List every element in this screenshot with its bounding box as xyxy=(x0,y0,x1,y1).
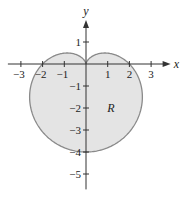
x-tick-label: −1 xyxy=(56,68,68,80)
y-axis-label: y xyxy=(82,4,89,18)
y-axis-arrow-icon xyxy=(83,20,89,28)
x-tick-label: −2 xyxy=(35,68,47,80)
x-tick-label: −3 xyxy=(13,68,25,80)
cardioid-chart: −3−2−11231−1−2−3−4−5 x y R xyxy=(0,0,188,199)
x-tick-label: 1 xyxy=(105,68,111,80)
x-tick-label: 3 xyxy=(148,68,154,80)
x-axis-label: x xyxy=(173,57,180,71)
y-tick-label: −3 xyxy=(69,124,81,136)
y-tick-label: −4 xyxy=(69,146,81,158)
y-tick-label: −1 xyxy=(69,80,81,92)
y-tick-label: −2 xyxy=(69,102,81,114)
region-label: R xyxy=(106,101,115,115)
x-tick-label: 2 xyxy=(127,68,133,80)
y-tick-label: 1 xyxy=(76,36,82,48)
y-tick-label: −5 xyxy=(69,168,81,180)
x-axis-arrow-icon xyxy=(163,61,171,67)
